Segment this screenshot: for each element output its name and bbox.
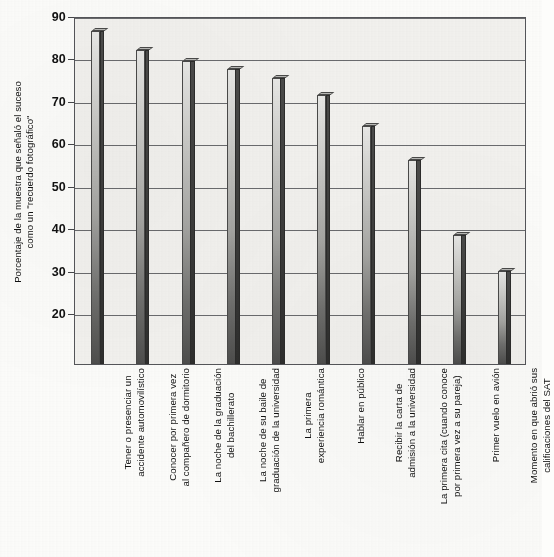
y-axis-tick-labels: 2030405060708090: [26, 0, 66, 557]
y-tick-label-50: 50: [26, 180, 66, 194]
tick-mark-80: [68, 59, 74, 60]
tick-mark-30: [68, 272, 74, 273]
x-axis-label: Hablar en público: [342, 368, 380, 554]
y-tick-label-20: 20: [26, 307, 66, 321]
tick-mark-40: [68, 229, 74, 230]
y-tick-label-80: 80: [26, 52, 66, 66]
x-axis-label: La noche de su baile de graduación de la…: [251, 368, 289, 554]
x-axis-label: La noche de la graduación del bachillera…: [206, 368, 244, 554]
x-axis-category-labels: Tener o presenciar un accidente automovi…: [74, 368, 526, 557]
y-tick-label-90: 90: [26, 10, 66, 24]
x-axis-label: La primera cita (cuando conoce por prime…: [432, 368, 470, 554]
tick-mark-20: [68, 314, 74, 315]
y-tick-label-60: 60: [26, 137, 66, 151]
tick-mark-70: [68, 102, 74, 103]
y-axis-tick-marks: [74, 17, 526, 365]
y-tick-label-40: 40: [26, 222, 66, 236]
tick-mark-90: [68, 17, 74, 18]
x-axis-label: Primer vuelo en avión: [477, 368, 515, 554]
x-axis-label: Tener o presenciar un accidente automovi…: [116, 368, 154, 554]
tick-mark-50: [68, 187, 74, 188]
x-axis-label: Recibir la carta de admisión a la univer…: [387, 368, 425, 554]
x-axis-label: La primera experiencia romántica: [296, 368, 334, 554]
x-axis-label: Momento en que abrió sus calificaciones …: [522, 368, 554, 554]
tick-mark-60: [68, 144, 74, 145]
x-axis-label: Conocer por primera vez al compañero de …: [161, 368, 199, 554]
y-tick-label-70: 70: [26, 95, 66, 109]
y-tick-label-30: 30: [26, 265, 66, 279]
